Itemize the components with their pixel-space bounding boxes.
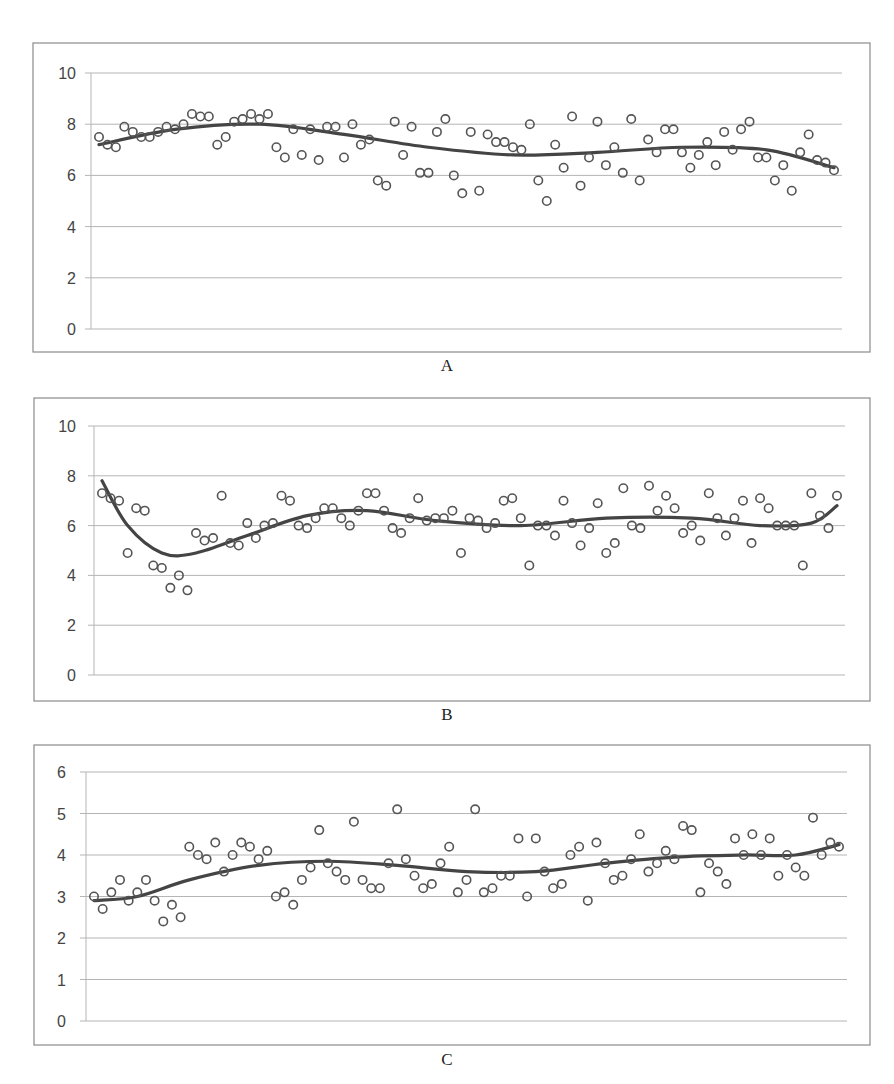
data-point [176,913,184,921]
data-point [402,855,410,863]
data-point [298,876,306,884]
data-point [376,884,384,892]
data-point [731,834,739,842]
y-tick-label: 3 [57,889,66,906]
data-point [696,888,704,896]
data-point [488,884,496,892]
y-tick-label: 4 [57,847,66,864]
data-point [98,905,106,913]
data-point [410,872,418,880]
data-point [514,834,522,842]
data-point [202,855,210,863]
trend-line [94,845,839,901]
data-point [618,872,626,880]
data-point [246,843,254,851]
data-point [714,867,722,875]
data-point [350,818,358,826]
data-point [445,843,453,851]
data-point [774,872,782,880]
data-point [341,876,349,884]
data-point [428,880,436,888]
data-point [636,830,644,838]
data-point [765,834,773,842]
data-point [688,826,696,834]
data-point [454,888,462,896]
chart-caption-c: C [0,1050,894,1070]
data-point [315,826,323,834]
y-tick-label: 0 [57,1013,66,1030]
data-point [471,805,479,813]
data-point [662,847,670,855]
data-point [679,822,687,830]
data-point [150,896,158,904]
data-point [644,867,652,875]
data-point [610,876,618,884]
data-point [791,863,799,871]
data-point [532,834,540,842]
data-point [393,805,401,813]
y-tick-label: 1 [57,972,66,989]
data-point [263,847,271,855]
data-point [419,884,427,892]
y-tick-label: 5 [57,806,66,823]
data-point [722,880,730,888]
data-point [748,830,756,838]
scatter-chart-c: 0123456 [0,0,894,1084]
data-point [480,888,488,896]
data-point [653,859,661,867]
data-point [549,884,557,892]
data-point [116,876,124,884]
data-point [809,813,817,821]
data-point [289,901,297,909]
data-point [185,843,193,851]
data-point [558,880,566,888]
data-point [367,884,375,892]
data-point [211,838,219,846]
data-point [462,876,470,884]
data-point [142,876,150,884]
data-point [168,901,176,909]
y-tick-label: 2 [57,930,66,947]
data-point [705,859,713,867]
data-point [358,876,366,884]
data-point [584,896,592,904]
data-point [107,888,115,896]
data-point [800,872,808,880]
data-point [254,855,262,863]
data-point [332,867,340,875]
data-point [575,843,583,851]
data-point [159,917,167,925]
data-point [592,838,600,846]
chart-panel-c: 0123456 C [0,0,894,1084]
data-point [436,859,444,867]
chart-frame [34,745,870,1045]
data-point [306,863,314,871]
y-tick-label: 6 [57,764,66,781]
data-point [237,838,245,846]
data-point [280,888,288,896]
